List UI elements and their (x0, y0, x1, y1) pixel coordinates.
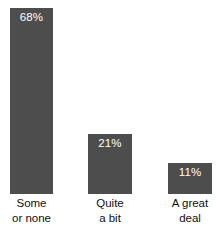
category-label-quite-a-bit: Quite a bit (66, 196, 154, 226)
bar-value-label-a-great-deal: 11% (168, 166, 212, 179)
bar-group-quite-a-bit: 21% (88, 134, 132, 194)
bar-some-or-none[interactable]: 68% (10, 8, 53, 194)
category-label-a-great-deal: A great deal (146, 196, 216, 226)
bar-chart: 68% 21% 11% Some or none Quite a bit A g… (0, 0, 216, 230)
category-label-line-1: Some (0, 196, 75, 211)
bar-group-a-great-deal: 11% (168, 163, 212, 194)
bar-group-some-or-none: 68% (10, 8, 53, 194)
category-axis-labels: Some or none Quite a bit A great deal (0, 196, 216, 230)
category-label-line-1: A great (146, 196, 216, 211)
plot-area: 68% 21% 11% (0, 0, 216, 194)
bar-value-label-quite-a-bit: 21% (88, 137, 132, 150)
category-label-line-2: a bit (66, 211, 154, 226)
bar-value-label-some-or-none: 68% (10, 11, 53, 24)
bar-quite-a-bit[interactable]: 21% (88, 134, 132, 194)
category-label-line-2: or none (0, 211, 75, 226)
category-label-some-or-none: Some or none (0, 196, 75, 226)
category-label-line-1: Quite (66, 196, 154, 211)
bar-a-great-deal[interactable]: 11% (168, 163, 212, 194)
category-label-line-2: deal (146, 211, 216, 226)
